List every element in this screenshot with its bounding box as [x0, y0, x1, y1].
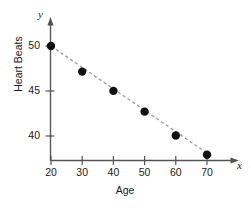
x-axis-title: Age: [90, 184, 160, 196]
data-point: [78, 67, 86, 75]
x-tick-label-20: 20: [40, 166, 62, 178]
data-point: [140, 107, 148, 115]
data-point: [203, 151, 211, 159]
x-axis-symbol: x: [237, 159, 242, 171]
y-axis: [47, 17, 53, 161]
x-tick-label-70: 70: [196, 166, 218, 178]
y-axis-symbol: y: [38, 8, 43, 20]
y-axis-title: Heart Beats: [12, 9, 24, 119]
data-point: [172, 131, 180, 139]
chart-figure: 50 45 40 20 30 40 50 60 70 y x Heart Bea…: [0, 0, 251, 208]
x-tick-label-30: 30: [71, 166, 93, 178]
data-point: [109, 87, 117, 95]
x-tick-label-60: 60: [165, 166, 187, 178]
x-tick-label-50: 50: [134, 166, 156, 178]
trend-line: [51, 46, 214, 158]
data-point: [47, 42, 55, 50]
y-tick-label-40: 40: [18, 129, 40, 141]
x-tick-label-40: 40: [102, 166, 124, 178]
